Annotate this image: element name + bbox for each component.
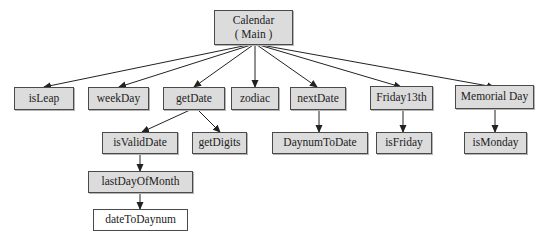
calendar-call-graph: Calendar ( Main ) isLeap weekDay getDate…	[0, 0, 552, 241]
node-friday13th: Friday13th	[370, 86, 433, 110]
node-label: lastDayOfMonth	[102, 175, 180, 189]
edge-getdate-getdigits	[198, 110, 220, 132]
node-memorial-day: Memorial Day	[455, 85, 534, 109]
node-weekday: weekDay	[88, 87, 149, 110]
node-getdate: getDate	[163, 87, 225, 110]
node-label: zodiac	[240, 92, 270, 106]
edge-main-nextdate	[257, 45, 317, 87]
node-label: isLeap	[29, 92, 60, 106]
node-daynumtodate: DaynumToDate	[272, 132, 368, 154]
node-label: isValidDate	[113, 136, 167, 150]
node-label: weekDay	[97, 92, 140, 106]
node-label: Calendar	[233, 14, 275, 28]
node-label: nextDate	[297, 92, 339, 106]
edge-main-getdate	[194, 45, 253, 87]
node-label: DaynumToDate	[283, 136, 356, 150]
node-label: getDate	[176, 92, 212, 106]
node-label: dateToDaynum	[105, 213, 176, 227]
node-label: Memorial Day	[461, 90, 528, 104]
node-sublabel: ( Main )	[235, 28, 273, 42]
node-label: getDigits	[198, 136, 240, 150]
node-nextdate: nextDate	[290, 87, 346, 110]
node-zodiac: zodiac	[231, 87, 279, 110]
node-label: isFriday	[385, 136, 423, 150]
edge-getdate-isvaliddate	[142, 110, 190, 132]
edge-main-isleap	[44, 45, 248, 87]
node-lastdayofmonth: lastDayOfMonth	[88, 171, 193, 193]
node-label: Friday13th	[376, 91, 426, 105]
node-calendar-main: Calendar ( Main )	[214, 10, 293, 45]
node-isfriday: isFriday	[376, 132, 432, 154]
edge-main-memorialday	[261, 45, 494, 87]
node-label: isMonday	[473, 136, 519, 150]
node-isvaliddate: isValidDate	[102, 132, 178, 154]
node-isleap: isLeap	[14, 87, 74, 110]
node-ismonday: isMonday	[464, 132, 527, 154]
node-getdigits: getDigits	[192, 132, 247, 154]
edge-main-weekday	[119, 45, 251, 87]
node-datetodaynum: dateToDaynum	[93, 209, 188, 231]
